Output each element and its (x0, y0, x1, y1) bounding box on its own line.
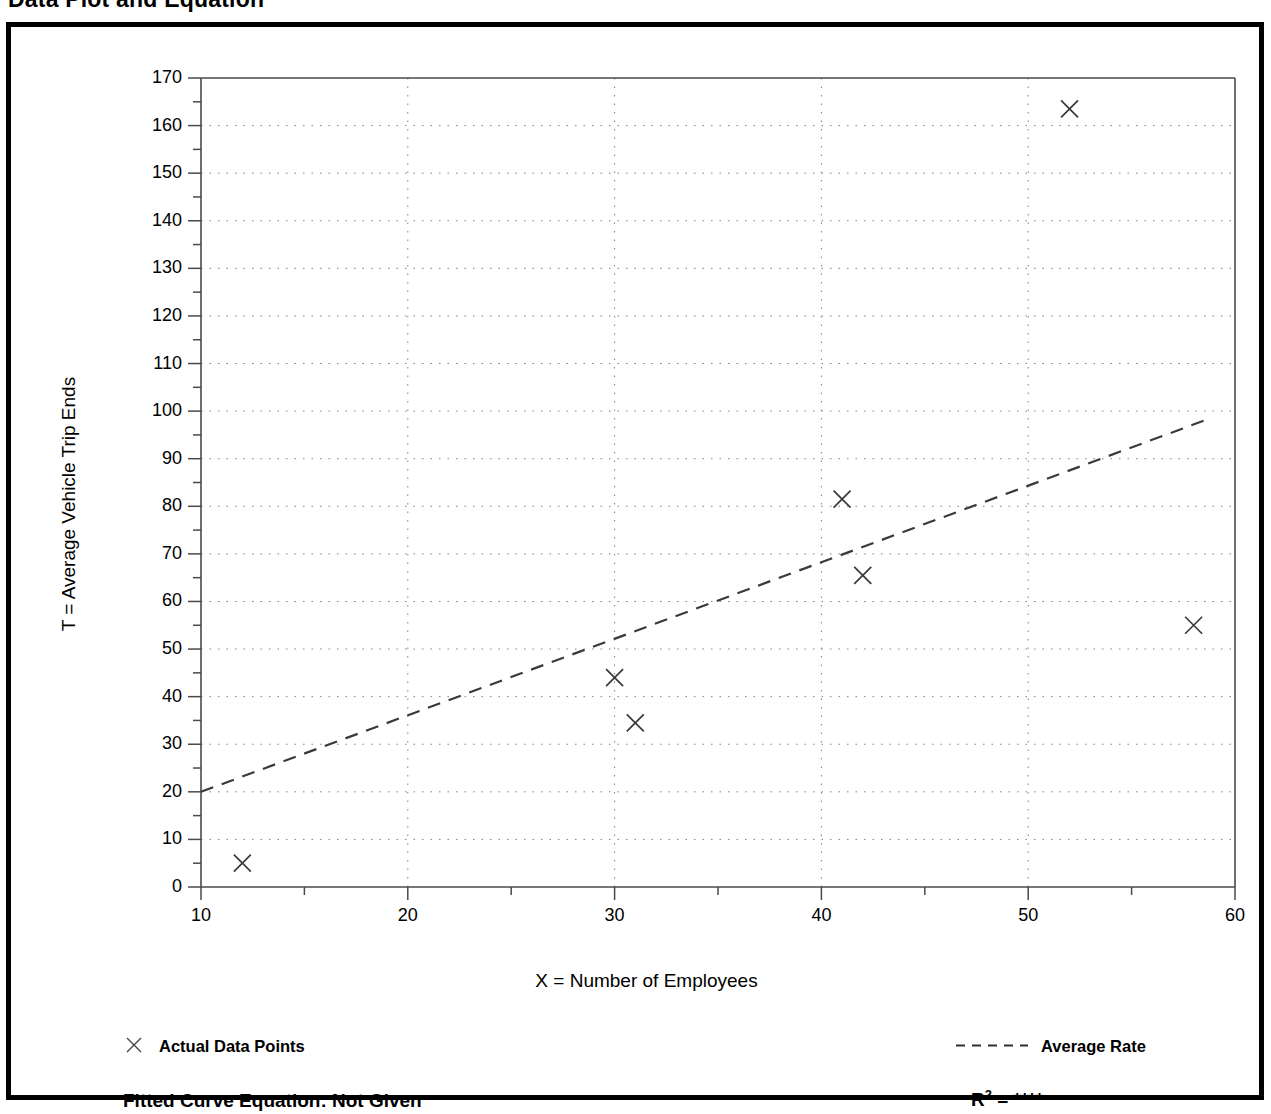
x-axis-tick-label: 50 (998, 905, 1058, 926)
average-rate-dashed-line-icon (956, 1044, 1028, 1047)
y-axis-tick-label: 10 (136, 828, 182, 849)
y-axis-tick-label: 80 (136, 495, 182, 516)
y-axis-tick-label: 40 (136, 686, 182, 707)
y-axis-tick-label: 100 (136, 400, 182, 421)
y-axis-tick-label: 60 (136, 590, 182, 611)
page-title: Data Plot and Equation (8, 0, 264, 13)
data-point-marker (854, 567, 871, 584)
y-axis-tick-label: 120 (136, 305, 182, 326)
y-axis-tick-label: 50 (136, 638, 182, 659)
y-axis-tick-label: 0 (136, 876, 182, 897)
y-axis-tick-label: 130 (136, 257, 182, 278)
x-axis-tick-label: 10 (171, 905, 231, 926)
average-rate-trend-line (201, 421, 1204, 792)
x-axis-title: X = Number of Employees (11, 970, 1271, 992)
fitted-curve-equation: Fitted Curve Equation: Not Given (123, 1090, 422, 1112)
r2-prefix: R (971, 1089, 985, 1110)
y-axis-tick-label: 90 (136, 448, 182, 469)
x-axis-tick-label: 40 (791, 905, 851, 926)
y-axis-tick-label: 20 (136, 781, 182, 802)
x-axis-tick-label: 20 (378, 905, 438, 926)
legend-label-average-rate: Average Rate (1041, 1037, 1146, 1056)
y-axis-tick-label: 160 (136, 115, 182, 136)
y-axis-title: T = Average Vehicle Trip Ends (58, 234, 80, 774)
x-axis-tick-label: 60 (1205, 905, 1265, 926)
y-axis-tick-label: 170 (136, 67, 182, 88)
actual-data-points-marker-icon (123, 1034, 145, 1056)
data-point-marker (606, 669, 623, 686)
chart-panel: X = Number of Employees T = Average Vehi… (6, 22, 1264, 1100)
r2-value: = **** (992, 1089, 1043, 1110)
data-point-marker (834, 491, 851, 508)
scatter-plot-canvas (11, 27, 1259, 1095)
y-axis-tick-label: 30 (136, 733, 182, 754)
legend-label-actual-data-points: Actual Data Points (159, 1037, 305, 1056)
x-axis-tick-label: 30 (585, 905, 645, 926)
y-axis-tick-label: 70 (136, 543, 182, 564)
y-axis-tick-label: 150 (136, 162, 182, 183)
r2-exponent: 2 (985, 1087, 992, 1102)
chart-page: Data Plot and Equation X = Number of Emp… (0, 0, 1271, 1114)
data-point-marker (627, 714, 644, 731)
r-squared-value: R2 = **** (971, 1087, 1043, 1111)
y-axis-tick-label: 110 (136, 353, 182, 374)
data-point-marker (234, 855, 251, 872)
y-axis-tick-label: 140 (136, 210, 182, 231)
data-point-marker (1061, 100, 1078, 117)
data-point-marker (1185, 617, 1202, 634)
